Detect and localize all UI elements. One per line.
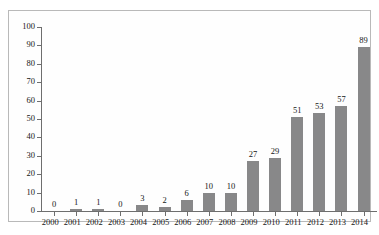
bar-slot[interactable]: 29 <box>264 27 286 211</box>
y-axis-tick-label: 70 <box>27 76 36 87</box>
y-axis-tick: 50 <box>41 119 42 120</box>
bar-value-label: 1 <box>87 197 109 207</box>
y-axis-tick: 60 <box>41 101 42 102</box>
bar-value-label: 3 <box>131 193 153 203</box>
y-axis-tick-label: 30 <box>27 150 36 161</box>
y-axis-tick-label: 80 <box>27 58 36 69</box>
y-axis-tick-label: 50 <box>27 113 36 124</box>
figure-frame: 0102030405060708090100 01103261010272951… <box>8 10 371 222</box>
bar[interactable] <box>203 193 215 211</box>
bar-slot[interactable]: 2 <box>154 27 176 211</box>
bar-slot[interactable]: 51 <box>286 27 308 211</box>
y-axis-tick: 100 <box>41 27 42 28</box>
y-axis-tick-mark <box>37 64 41 65</box>
x-axis-tick-mark <box>76 212 77 216</box>
x-axis-tick-mark <box>319 212 320 216</box>
x-axis-tick-mark <box>142 212 143 216</box>
x-axis-tick-mark <box>275 212 276 216</box>
y-axis-tick: 40 <box>41 137 42 138</box>
y-axis-tick-mark <box>37 45 41 46</box>
x-axis-tick-mark <box>54 212 55 216</box>
bar-slot[interactable]: 89 <box>352 27 374 211</box>
y-axis-tick-label: 90 <box>27 39 36 50</box>
y-axis-tick: 30 <box>41 156 42 157</box>
bar-slot[interactable]: 0 <box>43 27 65 211</box>
bar-value-label: 29 <box>264 146 286 156</box>
y-axis-tick-label: 0 <box>31 205 35 216</box>
x-axis-tick-mark <box>98 212 99 216</box>
bar-chart-figure: 0102030405060708090100 01103261010272951… <box>0 0 379 235</box>
bar-value-label: 2 <box>154 195 176 205</box>
x-axis-tick-label: 2014 <box>345 217 375 228</box>
bar-slot[interactable]: 10 <box>198 27 220 211</box>
y-axis-tick-mark <box>37 119 41 120</box>
y-axis-tick-mark <box>37 82 41 83</box>
bar[interactable] <box>92 209 104 211</box>
y-axis-tick-mark <box>37 27 41 28</box>
bar-value-label: 10 <box>198 181 220 191</box>
bar[interactable] <box>291 117 303 211</box>
x-axis-tick-mark <box>253 212 254 216</box>
y-axis-tick: 0 <box>41 211 42 212</box>
bar[interactable] <box>313 113 325 211</box>
bar[interactable] <box>358 47 370 211</box>
x-axis-tick-mark <box>297 212 298 216</box>
bar-value-label: 27 <box>242 149 264 159</box>
bar-value-label: 53 <box>308 101 330 111</box>
bar-value-label: 57 <box>330 94 352 104</box>
y-axis-tick-label: 100 <box>22 21 35 32</box>
bar-value-label: 51 <box>286 105 308 115</box>
y-axis-tick: 90 <box>41 45 42 46</box>
y-axis-tick-label: 10 <box>27 187 36 198</box>
bar[interactable] <box>225 193 237 211</box>
y-axis-tick-label: 20 <box>27 168 36 179</box>
bar-slot[interactable]: 27 <box>242 27 264 211</box>
bar-slot[interactable]: 3 <box>131 27 153 211</box>
bar[interactable] <box>159 207 171 211</box>
bar-slot[interactable]: 53 <box>308 27 330 211</box>
bar-slot[interactable]: 6 <box>176 27 198 211</box>
plot-area: 0102030405060708090100 01103261010272951… <box>41 27 377 212</box>
bar-value-label: 6 <box>176 188 198 198</box>
x-axis-tick-mark <box>364 212 365 216</box>
y-axis-tick-mark <box>37 101 41 102</box>
bar-slot[interactable]: 10 <box>220 27 242 211</box>
y-axis-tick-mark <box>37 174 41 175</box>
y-axis-tick-label: 60 <box>27 95 36 106</box>
bar-value-label: 89 <box>352 35 374 45</box>
bar-value-label: 0 <box>43 199 65 209</box>
x-axis-tick-mark <box>120 212 121 216</box>
bar-slot[interactable]: 1 <box>87 27 109 211</box>
x-axis-tick-mark <box>187 212 188 216</box>
x-axis-tick-mark <box>165 212 166 216</box>
y-axis-tick-mark <box>37 156 41 157</box>
y-axis-tick-mark <box>37 193 41 194</box>
y-axis-tick: 20 <box>41 174 42 175</box>
bar-value-label: 10 <box>220 181 242 191</box>
y-axis-tick: 70 <box>41 82 42 83</box>
x-axis-tick-mark <box>209 212 210 216</box>
y-axis-tick-mark <box>37 137 41 138</box>
bar-slot[interactable]: 1 <box>65 27 87 211</box>
y-axis-tick-label: 40 <box>27 131 36 142</box>
bar-value-label: 1 <box>65 197 87 207</box>
bar[interactable] <box>70 209 82 211</box>
bar-value-label: 0 <box>109 199 131 209</box>
bar[interactable] <box>181 200 193 211</box>
bar[interactable] <box>136 205 148 211</box>
y-axis-tick: 10 <box>41 193 42 194</box>
bar[interactable] <box>335 106 347 211</box>
bar[interactable] <box>269 158 281 211</box>
bar[interactable] <box>247 161 259 211</box>
x-axis-tick-mark <box>341 212 342 216</box>
bar-slot[interactable]: 57 <box>330 27 352 211</box>
y-axis-tick-mark <box>37 211 41 212</box>
bar-slot[interactable]: 0 <box>109 27 131 211</box>
y-axis-tick: 80 <box>41 64 42 65</box>
x-axis-tick-mark <box>231 212 232 216</box>
